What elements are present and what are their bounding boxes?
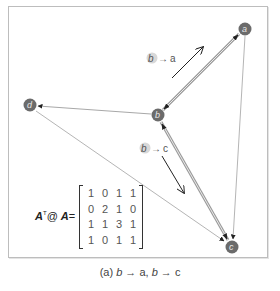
svg-text:b: b [148,53,154,64]
matrix-cell: 1 [112,186,126,202]
svg-text:a: a [170,53,176,64]
node-b: b [152,109,165,122]
edge-b-d [38,106,151,114]
matrix-symbol-a-transpose: A [35,210,43,222]
direction-arrow-b-to-c [162,156,184,193]
matrix-symbol-a: A [61,210,69,222]
matrix-cell: 0 [126,202,140,218]
result-matrix: 1 0 1 1 0 2 1 0 1 1 3 1 1 0 1 1 [79,185,143,251]
node-d: d [24,99,37,112]
caption-dst-2: c [175,266,181,278]
edge-a-c [233,36,245,239]
equals-sign: = [69,210,75,222]
matrix-cell-highlighted: 1 [84,217,98,233]
figure-caption: (a) b → a, b → c [0,266,280,278]
caption-prefix: (a) [100,266,117,278]
matrix-cell: 1 [112,233,126,249]
matrix-cell: 1 [112,202,126,218]
node-c: c [226,241,239,254]
matrix-cell: 1 [84,233,98,249]
matrix-cell: 1 [126,217,140,233]
matmul-operator: @ [47,210,58,222]
annotation-b-to-a: b → a [147,53,177,65]
edge-b-a [163,34,239,110]
annotation-b-to-c: b → c [140,143,169,155]
edge-b-c [161,122,228,240]
svg-text:a: a [242,24,247,34]
matrix-cell: 1 [84,186,98,202]
caption-arrow-2: → [158,266,175,278]
matrix-cell: 0 [98,186,112,202]
matrix-equation-label: AT@ A= [35,210,75,222]
matrix-grid: 1 0 1 1 0 2 1 0 1 1 3 1 1 0 1 1 [84,186,140,248]
matrix-cell: 0 [84,202,98,218]
matrix-cell: 1 [126,186,140,202]
matrix-cell: 2 [98,202,112,218]
svg-text:c: c [163,143,168,154]
svg-text:c: c [229,242,234,252]
matrix-cell: 1 [98,217,112,233]
matrix-cell: 3 [112,217,126,233]
caption-arrow-1: → [122,266,139,278]
svg-text:b: b [155,110,160,120]
matrix-cell: 0 [98,233,112,249]
right-bracket [139,185,143,249]
svg-text:→: → [151,143,161,154]
matrix-cell: 1 [126,233,140,249]
left-bracket [79,185,83,249]
svg-text:b: b [141,143,147,154]
svg-text:→: → [158,53,168,64]
node-a: a [239,23,252,36]
